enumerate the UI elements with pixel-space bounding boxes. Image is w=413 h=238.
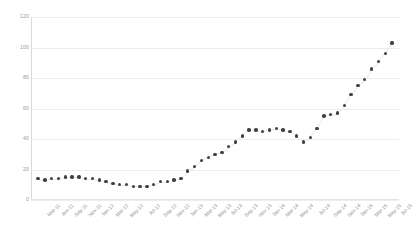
x-axis-tick-label: May-13 [217,203,232,218]
data-point [57,177,60,180]
x-axis-tick-label-wrapper: Jul-15 [400,203,413,216]
x-axis-tick-label: Jan-14 [271,203,285,217]
data-point [261,130,264,133]
data-point [268,128,271,131]
x-axis-tick-label: Sep-13 [244,203,259,218]
data-point [70,175,73,178]
gridline [31,139,399,140]
data-point [111,182,114,185]
x-axis-tick-label: May-14 [299,203,314,218]
x-axis-tick-label: Sep-11 [74,203,89,218]
data-point [227,145,230,148]
x-axis-tick-label-wrapper: May-15 [387,203,402,218]
data-point [329,113,332,116]
data-point [370,67,373,70]
data-point [254,128,257,131]
x-axis-tick-label-wrapper: Mar-11 [47,203,61,217]
x-axis-tick-label: May-15 [387,203,402,218]
x-axis-tick-label-wrapper: May-14 [299,203,314,218]
y-axis-tick-label: 20 [3,167,29,172]
y-axis-tick-label: 0 [3,197,29,202]
x-axis-line [31,199,399,200]
x-axis-tick-label-wrapper: Jun-11 [60,203,74,217]
data-point [145,185,148,188]
data-point [179,177,182,180]
data-point [363,78,366,81]
x-axis-tick-label-wrapper: Jul-12 [148,203,161,216]
data-point [315,127,318,130]
data-point [193,165,196,168]
x-axis-tick-label-wrapper: May-13 [217,203,232,218]
gridline [31,109,399,110]
data-point [118,183,121,186]
data-point [64,175,67,178]
y-axis-tick-label: 120 [3,14,29,19]
data-point [36,177,39,180]
x-axis-tick-label: Nov-11 [87,203,102,218]
x-axis-tick-label-wrapper: Mar-15 [373,203,388,218]
y-axis-tick-label: 100 [3,45,29,50]
x-axis-tick-label-wrapper: Jan-12 [101,203,115,217]
x-axis-tick-label: Jul-12 [148,203,161,216]
data-point [336,111,339,114]
x-axis-tick-label: May-12 [129,203,144,218]
data-point [356,84,359,87]
y-axis-tick-label: 60 [3,106,29,111]
gridline [31,17,399,18]
data-point [166,180,169,183]
gridline [31,170,399,171]
data-point [152,183,155,186]
data-point [281,128,284,131]
x-axis-tick-label-wrapper: Nov-12 [176,203,191,218]
x-axis-tick-label-wrapper: Jul-13 [230,203,243,216]
data-point [302,140,305,143]
x-axis-tick-label: Nov-13 [258,203,273,218]
x-axis-tick-label: Jun-11 [60,203,74,217]
x-axis-tick-label: Jan-12 [101,203,115,217]
data-point [349,93,352,96]
data-point [343,104,346,107]
data-point [138,185,141,188]
x-axis-tick-label: Sep-12 [162,203,177,218]
y-axis-tick-label: 40 [3,136,29,141]
x-axis-tick-label-wrapper: Mar-12 [115,203,130,218]
data-point [159,180,162,183]
x-axis-tick-label-wrapper: Nov-13 [258,203,273,218]
x-axis-tick-label-wrapper: Jan-13 [189,203,203,217]
gridline [31,48,399,49]
x-axis-tick-label: Jul-15 [400,203,413,216]
x-axis-tick-label-wrapper: Mar-14 [285,203,300,218]
data-point [132,185,135,188]
data-point [275,127,278,130]
data-point [288,130,291,133]
gridline [31,78,399,79]
data-point [50,177,53,180]
x-axis-tick-label: Sep-14 [333,203,348,218]
x-axis-tick-label-wrapper: Sep-13 [244,203,259,218]
x-axis-tick-label: Mar-12 [115,203,130,218]
x-axis-tick-label: Mar-11 [47,203,61,217]
x-axis-tick-label: Jan-15 [360,203,374,217]
data-point [213,153,216,156]
x-axis-tick-label-wrapper: Mar-13 [203,203,218,218]
data-point [43,178,46,181]
x-axis-tick-label-wrapper: Nov-14 [346,203,361,218]
x-axis-tick-label-wrapper: Jan-14 [271,203,285,217]
data-point [77,175,80,178]
data-point [322,114,325,117]
y-axis-line [31,17,32,200]
x-axis-tick-label-wrapper: May-12 [129,203,144,218]
x-axis-tick-label: Mar-15 [373,203,388,218]
gridline [31,200,399,201]
data-point [241,134,244,137]
data-point [377,60,380,63]
x-axis-tick-label-wrapper: Sep-14 [333,203,348,218]
y-axis-tick-labels: 020406080100120 [0,0,29,238]
data-point [247,128,250,131]
x-axis-tick-label: Mar-13 [203,203,218,218]
x-axis-tick-label: Jan-13 [189,203,203,217]
x-axis-tick-label: Jul-13 [230,203,243,216]
x-axis-tick-label-wrapper: Jan-15 [360,203,374,217]
data-point [186,169,189,172]
